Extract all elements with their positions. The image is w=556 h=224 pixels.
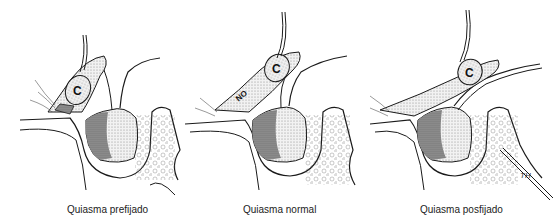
panel-postfixed-chiasm: C TH Quiasma posfijado <box>370 0 556 224</box>
panel-normal-chiasm: C NO Quiasma normal <box>185 0 370 224</box>
carotid-label: C <box>465 66 474 80</box>
artist-signature: TH <box>520 171 531 180</box>
carotid-label: C <box>73 84 82 98</box>
normal-chiasm-illustration: C NO <box>185 0 370 224</box>
postfixed-chiasm-illustration: C TH <box>370 0 556 224</box>
carotid-label: C <box>272 62 281 76</box>
caption-postfixed: Quiasma posfijado <box>420 204 503 215</box>
panel-prefixed-chiasm: C Quiasma prefijado <box>0 0 185 224</box>
caption-normal: Quiasma normal <box>243 204 316 215</box>
caption-prefixed: Quiasma prefijado <box>67 204 148 215</box>
prefixed-chiasm-illustration: C <box>0 0 185 224</box>
